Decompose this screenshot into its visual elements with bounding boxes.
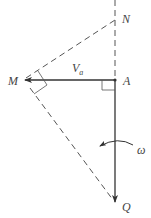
angular-velocity-arrow <box>100 141 133 146</box>
dashed-line-m-to-n <box>26 20 115 78</box>
label-m: M <box>8 75 18 87</box>
velocity-diagram <box>0 0 151 218</box>
right-angle-marker-a <box>102 80 115 90</box>
label-a: A <box>123 75 130 87</box>
label-q: Q <box>122 201 131 213</box>
velocity-subscript: a <box>79 68 83 77</box>
point-a-dot <box>113 78 116 81</box>
right-angle-marker-m <box>34 71 47 94</box>
dashed-line-m-to-q <box>30 88 113 200</box>
label-n: N <box>122 13 130 25</box>
label-velocity: Va <box>72 62 83 74</box>
label-omega: ω <box>137 144 145 156</box>
